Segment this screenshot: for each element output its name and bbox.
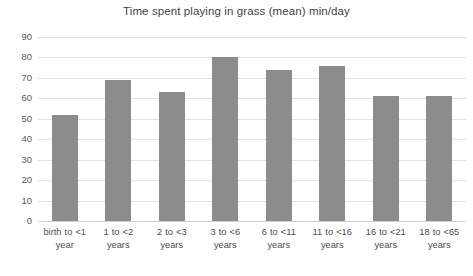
bar-slot [38,37,92,221]
x-axis-category-labels: birth to <1 year1 to <2 years2 to <3 yea… [38,226,466,272]
x-axis-tick-label: 1 to <2 years [92,226,146,251]
bar-slot [199,37,253,221]
bar[interactable] [426,96,452,221]
y-axis-tick-label: 20 [4,175,32,185]
bar[interactable] [373,96,399,221]
x-axis-tick-label: birth to <1 year [38,226,92,251]
bar-slot [306,37,360,221]
bar-slot [359,37,413,221]
y-axis-tick-label: 80 [4,52,32,62]
bars-container [38,37,466,221]
y-axis-tick-label: 10 [4,196,32,206]
bar-slot [413,37,467,221]
x-axis-tick-label: 6 to <11 years [252,226,306,251]
bar-chart: Time spent playing in grass (mean) min/d… [0,0,473,276]
x-axis-tick-label: 3 to <6 years [199,226,253,251]
y-axis-tick-label: 0 [4,216,32,226]
bar[interactable] [319,66,345,221]
x-axis-tick-label: 11 to <16 years [306,226,360,251]
y-axis-tick-label: 70 [4,73,32,83]
bar-slot [92,37,146,221]
bar[interactable] [212,57,238,221]
bar[interactable] [159,92,185,221]
bar[interactable] [105,80,131,221]
bar[interactable] [52,115,78,221]
y-axis-tick-label: 90 [4,32,32,42]
x-axis-tick-label: 2 to <3 years [145,226,199,251]
x-axis-tick-label: 16 to <21 years [359,226,413,251]
y-axis-tick-label: 40 [4,134,32,144]
bar[interactable] [266,70,292,221]
bar-slot [252,37,306,221]
x-axis-line [38,221,466,222]
y-axis-tick-label: 50 [4,114,32,124]
y-axis-tick-label: 30 [4,155,32,165]
x-axis-tick-label: 18 to <65 years [413,226,467,251]
y-axis-tick-label: 60 [4,93,32,103]
bar-slot [145,37,199,221]
